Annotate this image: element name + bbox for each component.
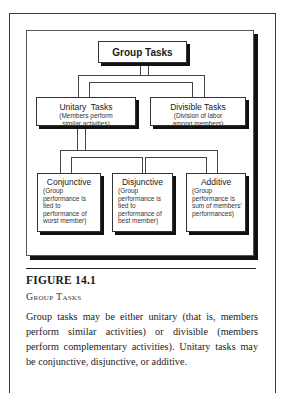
conjunctive-label: Conjunctive — [38, 177, 100, 187]
connector-level3-inner-left — [71, 157, 143, 173]
conjunctive-box: Conjunctive (Group performance is tied t… — [37, 173, 101, 232]
group-tasks-box: Group Tasks — [98, 41, 187, 63]
connector-level3-inner-right — [145, 157, 207, 173]
connector-root-stem — [140, 62, 149, 76]
disjunctive-description: (Group performance is tied to performanc… — [118, 187, 166, 225]
divisible-tasks-label: Divisible Tasks — [151, 102, 245, 112]
divisible-tasks-box: Divisible Tasks (Division of labor among… — [150, 97, 246, 126]
disjunctive-label: Disjunctive — [113, 177, 172, 187]
figure-title: Group Tasks — [26, 291, 82, 302]
unitary-tasks-description: (Members perform similar activities) — [37, 112, 135, 128]
unitary-tasks-label: Unitary Tasks — [37, 102, 135, 112]
divisible-tasks-description: (Division of labor among members) — [151, 112, 245, 128]
connector-level2-inner — [89, 82, 193, 97]
figure-caption: Group tasks may be either unitary (that … — [26, 309, 258, 369]
figure-number: FIGURE 14.1 — [26, 274, 96, 286]
caption-divider — [26, 268, 256, 269]
additive-description: (Group performance is sum of members' pe… — [192, 187, 242, 217]
connector-unitary-stem — [77, 125, 86, 151]
additive-label: Additive — [187, 177, 245, 187]
disjunctive-box: Disjunctive (Group performance is tied t… — [112, 173, 173, 232]
conjunctive-description: (Group performance is tied to performanc… — [43, 187, 95, 225]
additive-box: Additive (Group performance is sum of me… — [186, 173, 246, 232]
unitary-tasks-box: Unitary Tasks (Members perform similar a… — [36, 97, 136, 126]
group-tasks-label: Group Tasks — [112, 47, 172, 58]
